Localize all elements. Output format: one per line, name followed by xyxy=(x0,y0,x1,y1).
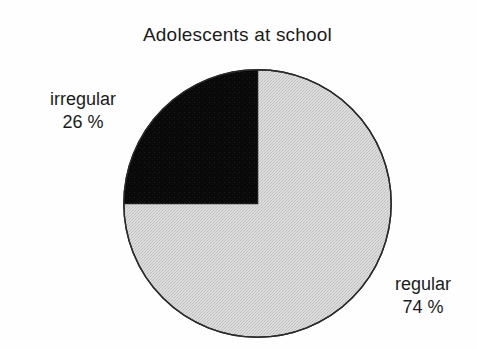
chart-title-text: Adolescents at school xyxy=(143,24,332,46)
pie-label-irregular-name: irregular xyxy=(37,88,129,111)
pie-chart-graphic xyxy=(123,69,392,338)
pie-label-regular: regular 74 % xyxy=(387,273,459,319)
pie-svg xyxy=(123,69,392,338)
pie-slice-irregular xyxy=(124,70,258,204)
pie-label-irregular: irregular 26 % xyxy=(37,88,129,134)
pie-label-regular-name: regular xyxy=(387,273,459,296)
chart-title: Adolescents at school xyxy=(0,24,477,46)
pie-label-regular-value: 74 % xyxy=(387,296,459,319)
pie-chart-figure: Adolescents at school xyxy=(0,0,477,349)
pie-label-irregular-value: 26 % xyxy=(37,111,129,134)
